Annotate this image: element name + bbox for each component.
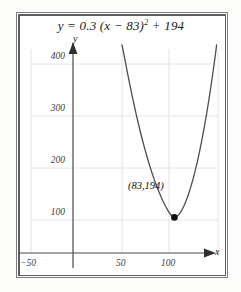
vertex-point-marker	[171, 214, 178, 221]
y-axis-label: y	[73, 33, 77, 44]
grid-vertical	[31, 49, 218, 253]
x-axis-label: x	[215, 246, 219, 257]
x-tick-label-100: 100	[161, 258, 175, 268]
y-tick-label-300: 300	[41, 103, 65, 113]
y-tick-label-400: 400	[41, 51, 65, 61]
figure-container: y = 0.3 (x − 83)2 + 194	[0, 0, 241, 292]
x-tick-label-minus50: −50	[20, 258, 36, 268]
vertex-coordinate-label: (83,194)	[128, 180, 164, 191]
y-tick-label-100: 100	[41, 207, 65, 217]
x-tick-label-50: 50	[116, 258, 126, 268]
grid-horizontal	[31, 64, 218, 220]
y-tick-label-200: 200	[41, 155, 65, 165]
